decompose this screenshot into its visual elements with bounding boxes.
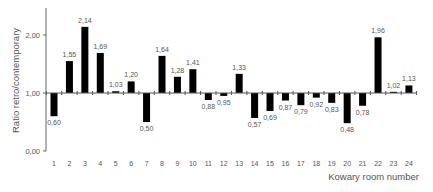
bar xyxy=(344,93,351,123)
x-tick-label: 18 xyxy=(312,160,320,167)
bar-value-label: 0,83 xyxy=(325,106,339,113)
bar-value-label: 1,20 xyxy=(124,71,138,78)
bar xyxy=(81,27,88,93)
bar-value-label: 1,64 xyxy=(155,46,169,53)
x-tick-label: 9 xyxy=(175,160,179,167)
bar xyxy=(189,69,196,93)
bar-value-label: 0,79 xyxy=(294,108,308,115)
x-tick-label: 20 xyxy=(343,160,351,167)
x-tick-label: 5 xyxy=(114,160,118,167)
bar-value-label: 1,03 xyxy=(109,81,123,88)
bar-value-label: 1,41 xyxy=(186,59,200,66)
x-tick-label: 23 xyxy=(390,160,398,167)
bar-value-label: 1,13 xyxy=(402,75,416,82)
bar xyxy=(143,93,150,122)
x-tick-label: 12 xyxy=(220,160,228,167)
y-tick-label: 2,00 xyxy=(25,31,40,40)
x-tick-label: 24 xyxy=(405,160,413,167)
x-tick-label: 10 xyxy=(189,160,197,167)
bar xyxy=(66,61,73,93)
bar-value-label: 1,55 xyxy=(63,51,77,58)
bar-value-label: 1,33 xyxy=(232,64,246,71)
x-tick-label: 7 xyxy=(145,160,149,167)
bar xyxy=(236,74,243,93)
bar-value-label: 0,88 xyxy=(201,103,215,110)
bar xyxy=(328,93,335,103)
bar xyxy=(359,93,366,106)
x-tick-label: 6 xyxy=(129,160,133,167)
bar-value-label: 2,14 xyxy=(78,17,92,24)
bar xyxy=(282,93,289,101)
bar xyxy=(313,93,320,98)
bar-value-label: 0,87 xyxy=(279,104,293,111)
bar xyxy=(128,81,135,93)
bar-value-label: 0,92 xyxy=(309,101,323,108)
bar xyxy=(297,93,304,105)
x-tick-label: 19 xyxy=(328,160,336,167)
x-tick-label: 21 xyxy=(359,160,367,167)
bar-value-label: 0,78 xyxy=(356,109,370,116)
x-tick-label: 17 xyxy=(297,160,305,167)
bar xyxy=(159,56,166,93)
bar xyxy=(251,93,258,118)
y-axis-label: Ratio retro/contemporary xyxy=(10,28,21,133)
y-tick-label: 0,00 xyxy=(25,147,40,156)
bar-value-label: 1,28 xyxy=(171,67,185,74)
bar-value-label: 1,69 xyxy=(93,43,107,50)
x-tick-label: 11 xyxy=(205,160,212,167)
x-tick-label: 13 xyxy=(235,160,243,167)
bar-value-label: 1,02 xyxy=(387,82,401,89)
bar-chart: 0,001,002,000,6011,5522,1431,6941,0351,2… xyxy=(0,0,433,192)
bar xyxy=(405,85,412,93)
bar xyxy=(97,53,104,93)
bar-value-label: 0,60 xyxy=(47,119,61,126)
bar xyxy=(267,93,274,111)
bar-value-label: 1,96 xyxy=(371,27,385,34)
bar xyxy=(375,37,382,93)
bar-value-label: 0,57 xyxy=(248,121,262,128)
bar-value-label: 0,69 xyxy=(263,114,277,121)
bar xyxy=(51,93,58,116)
bar-value-label: 0,48 xyxy=(340,126,354,133)
x-tick-label: 8 xyxy=(160,160,164,167)
x-tick-label: 14 xyxy=(251,160,259,167)
x-tick-label: 3 xyxy=(83,160,87,167)
x-tick-label: 1 xyxy=(52,160,56,167)
y-tick-label: 1,00 xyxy=(25,89,40,98)
x-tick-label: 2 xyxy=(67,160,71,167)
bar xyxy=(174,77,181,93)
x-tick-label: 22 xyxy=(374,160,382,167)
x-tick-label: 4 xyxy=(98,160,102,167)
bar xyxy=(205,93,212,100)
bar-value-label: 0,50 xyxy=(140,125,154,132)
bar-value-label: 0,95 xyxy=(217,99,231,106)
x-axis-label: Kowary room number xyxy=(328,171,419,182)
x-tick-label: 15 xyxy=(266,160,274,167)
x-tick-label: 16 xyxy=(282,160,290,167)
